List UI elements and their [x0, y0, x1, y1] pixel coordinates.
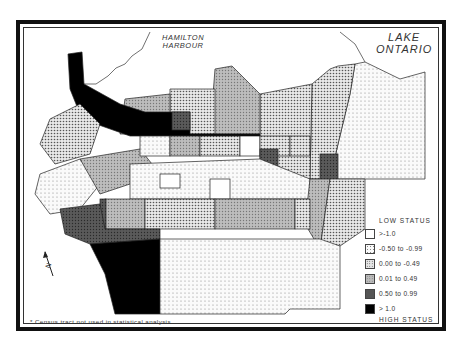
legend-label: 0.50 to 0.99 [379, 290, 417, 297]
legend-label: 0.01 to 0.49 [379, 275, 417, 282]
swatch-gray-dots [365, 274, 375, 284]
lake-label-line1: LAKE [376, 32, 432, 44]
legend-item: 0.00 to -0.49 [365, 256, 445, 271]
swatch-black [365, 304, 375, 314]
north-arrow-icon: N [42, 250, 56, 278]
legend-item: >-1.0 [365, 226, 445, 241]
legend-label: -0.50 to -0.99 [379, 245, 422, 252]
legend-label: >-1.0 [379, 230, 396, 237]
swatch-white [365, 229, 375, 239]
swatch-dark-gray [365, 289, 375, 299]
lake-label-line2: ONTARIO [376, 44, 432, 56]
legend-item: 0.01 to 0.49 [365, 271, 445, 286]
footnote: * Census tract not used in statistical a… [30, 318, 173, 325]
legend-label: 0.00 to -0.49 [379, 260, 420, 267]
legend-item: > 1.0 [365, 301, 445, 316]
swatch-light-dots [365, 244, 375, 254]
map-frame: HAMILTON HARBOUR LAKE ONTARIO N LOW STAT… [16, 20, 446, 331]
excluded-tract [160, 174, 180, 188]
legend-item: 0.50 to 0.99 [365, 286, 445, 301]
legend: LOW STATUS >-1.0 -0.50 to -0.99 0.00 to … [365, 217, 445, 325]
north-label: N [44, 262, 52, 269]
legend-label: > 1.0 [379, 305, 395, 312]
legend-item: -0.50 to -0.99 [365, 241, 445, 256]
legend-bottom-label: HIGH STATUS [365, 316, 445, 323]
swatch-medium-dots [365, 259, 375, 269]
legend-top-label: LOW STATUS [365, 217, 445, 224]
hamilton-harbour-label: HAMILTON HARBOUR [162, 34, 204, 50]
lake-ontario-label: LAKE ONTARIO [376, 32, 432, 55]
harbour-label-line2: HARBOUR [162, 42, 204, 50]
